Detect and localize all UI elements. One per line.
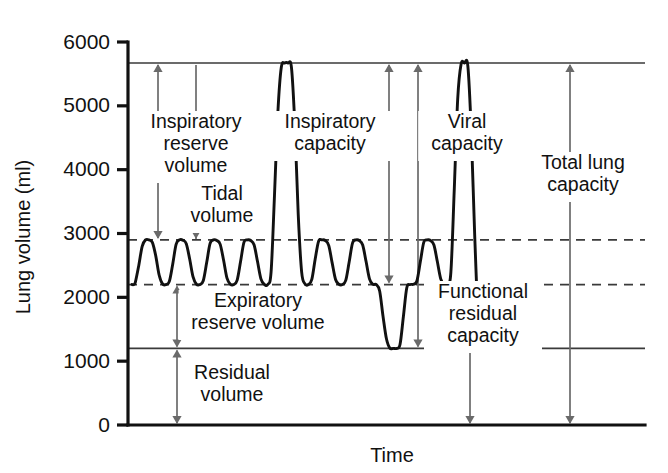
total-lung-capacity-label: Total lungcapacity bbox=[524, 151, 642, 202]
y-axis-title: Lung volume (ml) bbox=[12, 160, 34, 315]
y-axis-tick-label: 2000 bbox=[63, 285, 110, 308]
lung-volumes-figure: 0100020003000400050006000 Inspiratoryres… bbox=[0, 0, 668, 473]
residual-volume-label-line: Residual bbox=[194, 361, 270, 383]
total-lung-capacity-label-line: Total lung bbox=[541, 151, 624, 173]
inspiratory-capacity-label: Inspiratorycapacity bbox=[266, 110, 394, 161]
inspiratory-reserve-volume-label: Inspiratoryreservevolume bbox=[132, 110, 260, 183]
inspiratory-capacity-label-line: capacity bbox=[294, 132, 366, 154]
functional-residual-capacity-label-line: residual bbox=[449, 302, 517, 324]
functional-residual-capacity-label-line: capacity bbox=[447, 324, 519, 346]
viral-capacity-label-line: capacity bbox=[431, 132, 503, 154]
x-axis-title: Time bbox=[370, 444, 414, 466]
total-lung-capacity-label-line: capacity bbox=[547, 173, 619, 195]
expiratory-reserve-volume-label-line: Expiratory bbox=[214, 289, 302, 311]
residual-volume-label: Residualvolume bbox=[183, 361, 281, 412]
inspiratory-reserve-volume-label-line: volume bbox=[165, 154, 228, 176]
y-axis-tick-label: 3000 bbox=[63, 221, 110, 244]
tidal-volume-label-line: Tidal bbox=[201, 182, 243, 204]
y-axis-tick-label: 1000 bbox=[63, 349, 110, 372]
y-axis-tick-label: 5000 bbox=[63, 93, 110, 116]
viral-capacity-label-line: Viral bbox=[448, 110, 487, 132]
tidal-volume-label-line: volume bbox=[191, 204, 254, 226]
inspiratory-reserve-volume-label-line: reserve bbox=[163, 132, 228, 154]
inspiratory-reserve-volume-label-line: Inspiratory bbox=[150, 110, 241, 132]
spirogram-chart: 0100020003000400050006000 Inspiratoryres… bbox=[0, 0, 668, 473]
y-axis-tick-label: 6000 bbox=[63, 30, 110, 53]
tidal-volume-label: Tidalvolume bbox=[183, 182, 260, 233]
residual-volume-label-line: volume bbox=[201, 383, 264, 405]
y-axis-tick-label: 4000 bbox=[63, 157, 110, 180]
viral-capacity-label: Viralcapacity bbox=[418, 110, 516, 161]
expiratory-reserve-volume-label-line: reserve volume bbox=[191, 311, 324, 333]
y-axis-tick-label: 0 bbox=[98, 413, 110, 436]
functional-residual-capacity-label-line: Functional bbox=[438, 280, 528, 302]
inspiratory-capacity-label-line: Inspiratory bbox=[284, 110, 375, 132]
functional-residual-capacity-label: Functionalresidualcapacity bbox=[424, 280, 542, 353]
expiratory-reserve-volume-label: Expiratoryreserve volume bbox=[179, 289, 338, 340]
